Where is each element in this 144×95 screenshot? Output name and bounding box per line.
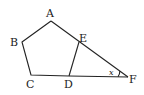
- segment-de: [69, 42, 79, 76]
- segment-cf: [69, 76, 128, 77]
- angle-label-x: x: [109, 68, 114, 77]
- angle-arc-f: [118, 71, 120, 77]
- label-e: E: [79, 32, 87, 45]
- label-d: D: [64, 78, 73, 91]
- label-a: A: [45, 7, 55, 20]
- segment-af: [51, 21, 128, 77]
- label-b: B: [10, 36, 18, 49]
- pentagon-diagram: A B C D E F x: [0, 0, 144, 95]
- label-f: F: [129, 73, 137, 86]
- label-c: C: [26, 78, 34, 91]
